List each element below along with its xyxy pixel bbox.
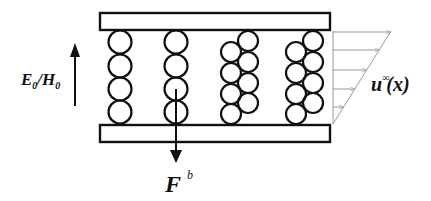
particle (221, 104, 241, 124)
field-label: E0/H0 (20, 70, 60, 91)
particle (165, 31, 188, 54)
particle (109, 31, 132, 54)
double-chain-3 (221, 31, 258, 124)
arrow-down-icon (170, 150, 182, 163)
field-direction-arrow (70, 43, 80, 106)
single-chain-1 (109, 31, 132, 124)
bottom-plate (100, 125, 330, 142)
particle (165, 55, 188, 78)
particle (109, 101, 132, 124)
flow-velocity-label: u∞(x) (371, 72, 410, 96)
particle-chains (109, 31, 324, 125)
chain-shear-diagram: E0/H0 Fb u∞(x) (0, 0, 431, 201)
particle (286, 104, 306, 124)
top-plate (100, 13, 330, 30)
plates (100, 13, 330, 142)
particle (109, 78, 132, 101)
force-label: Fb (164, 168, 193, 197)
arrow-up-icon (70, 43, 80, 57)
double-chain-4 (286, 31, 323, 124)
particle (109, 55, 132, 78)
